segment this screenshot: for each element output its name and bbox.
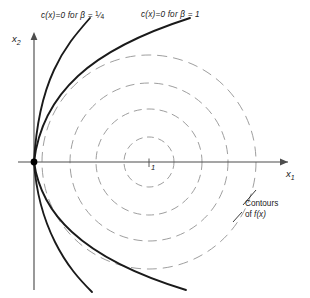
beta-1-upper-branch xyxy=(34,18,190,162)
label-beta-quarter-text: c(x)=0 for β = xyxy=(41,11,95,20)
x-axis-arrowhead xyxy=(280,159,288,166)
beta-1-lower-branch xyxy=(34,162,186,290)
contours-annotation-line2: of f(x) xyxy=(245,210,278,221)
x-tick-label-1: 1 xyxy=(151,163,155,172)
constraint-curve-beta-quarter xyxy=(34,18,92,292)
contours-annotation-line1: Contours xyxy=(245,199,278,210)
x-axis-label-sub: 1 xyxy=(291,174,295,181)
y-axis-label: x2 xyxy=(12,33,21,46)
beta-quarter-upper-branch xyxy=(34,18,90,162)
beta-quarter-lower-branch xyxy=(34,162,92,292)
y-axis-arrowhead xyxy=(31,32,38,40)
contours-of-text: of xyxy=(245,210,254,219)
y-axis-label-sub: 2 xyxy=(17,39,21,46)
label-constraint-beta-one: c(x)=0 for β = 1 xyxy=(141,10,200,19)
plot-svg xyxy=(0,0,310,298)
contours-annotation: Contours of f(x) xyxy=(245,199,278,220)
figure-container: c(x)=0 for β = 1⁄4 c(x)=0 for β = 1 x2 x… xyxy=(0,0,310,298)
constraint-curve-beta-1 xyxy=(34,18,190,290)
label-constraint-beta-quarter: c(x)=0 for β = 1⁄4 xyxy=(41,10,104,20)
origin-point-marker xyxy=(31,159,38,166)
x-axis-label: x1 xyxy=(286,168,295,181)
fraction-one-quarter: 1⁄4 xyxy=(95,10,104,20)
contours-fn-text: f(x) xyxy=(254,210,266,219)
